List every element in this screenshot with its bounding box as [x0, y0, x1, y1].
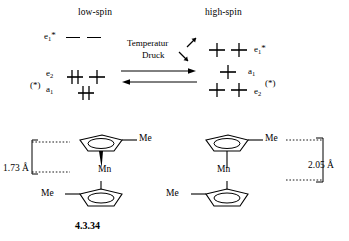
term-subscript: 1 [252, 70, 255, 77]
high-spin-level-label-e1star: e1* [254, 44, 266, 55]
cyclopentadienyl-ring-icon [206, 189, 248, 206]
condition-pressure-label: Druck [142, 50, 165, 60]
cyclopentadienyl-ring-icon [80, 135, 122, 151]
single-electron-icon [208, 41, 226, 59]
single-electron-icon [208, 81, 226, 99]
right-structure-metal-label: Mn [217, 165, 230, 175]
figure-caption: 4.3.34 [75, 221, 100, 231]
low-spin-level-label-e2: e2 [46, 69, 53, 79]
low-spin-heading: low-spin [78, 7, 112, 17]
term-star: * [51, 30, 56, 40]
low-spin-star-marker: (*) [30, 80, 41, 90]
high-spin-heading: high-spin [205, 7, 242, 17]
arrow-down-right-icon [178, 51, 190, 63]
left-structure-methyl-bottom-label: Me [41, 189, 54, 199]
left-structure-methyl-top-label: Me [139, 134, 152, 144]
paired-electrons-icon [77, 84, 95, 102]
term-subscript: 1 [50, 88, 53, 95]
low-spin-level-label-a1: a1 [46, 85, 53, 95]
right-structure-methyl-top-label: Me [265, 134, 278, 144]
high-spin-level-label-a1: a1 [248, 67, 255, 77]
low-spin-orbital-e1star-a [66, 37, 80, 38]
low-spin-orbital-e1star-b [87, 37, 101, 38]
equilibrium-arrows-icon [121, 66, 197, 88]
low-spin-orbital-a1 [77, 84, 95, 102]
cyclopentadienyl-ring-icon [80, 189, 122, 206]
right-structure-distance-label: 2.05 Å [308, 161, 334, 171]
single-electron-icon [219, 63, 237, 81]
condition-temperature-label: Temperatur [127, 38, 168, 48]
single-electron-icon [230, 81, 248, 99]
high-spin-orbital-e2-a [208, 81, 226, 99]
term-subscript: 2 [50, 72, 53, 79]
high-spin-level-label-e2: e2 [254, 87, 261, 97]
high-spin-orbital-e2-b [230, 81, 248, 99]
term-subscript: 2 [258, 90, 261, 97]
high-spin-orbital-e1star-b [230, 41, 248, 59]
low-spin-level-label-e1star: e1* [44, 31, 56, 42]
left-structure-metal-label: Mn [98, 165, 111, 175]
right-structure-methyl-bottom-label: Me [166, 189, 179, 199]
high-spin-orbital-a1 [219, 63, 237, 81]
term-star: * [261, 43, 266, 53]
single-electron-icon [230, 41, 248, 59]
arrow-up-right-icon [186, 37, 198, 49]
manganocene-spin-crossover-figure: low-spin high-spin e1* (*) e2 a1 [0, 0, 349, 241]
condition-pressure-row: Druck [142, 50, 165, 60]
cyclopentadienyl-ring-icon [206, 135, 248, 151]
high-spin-orbital-e1star-a [208, 41, 226, 59]
condition-temperature-row: Temperatur [127, 38, 168, 48]
left-structure-distance-label: 1.73 Å [3, 164, 29, 174]
high-spin-star-marker: (*) [265, 78, 276, 88]
